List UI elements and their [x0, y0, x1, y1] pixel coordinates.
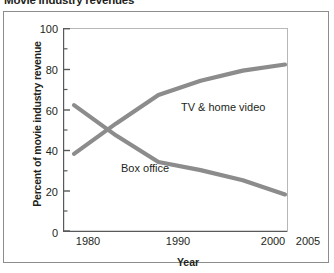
line-chart-svg: [63, 28, 288, 232]
y-axis-tick-labels: 100 80 60 40 20 0: [18, 0, 58, 273]
series-label-box-office: Box office: [121, 163, 169, 174]
x-axis-title: Year: [177, 256, 199, 268]
y-tick-label-60: 60: [22, 106, 58, 117]
x-tick-label-2005: 2005: [296, 236, 320, 247]
y-tick-label-100: 100: [22, 24, 58, 35]
series-line-box-office: [74, 105, 285, 194]
plot-area: [63, 28, 288, 232]
y-tick-label-20: 20: [22, 187, 58, 198]
x-axis-title-wrap: Year: [0, 256, 334, 268]
x-tick-label-2000: 2000: [261, 236, 285, 247]
y-tick-label-0: 0: [22, 228, 58, 239]
x-tick-label-1980: 1980: [76, 236, 100, 247]
y-tick-label-40: 40: [22, 146, 58, 157]
series-label-tv-home-video: TV & home video: [181, 102, 265, 113]
y-tick-label-80: 80: [22, 65, 58, 76]
x-tick-label-1990: 1990: [166, 236, 190, 247]
